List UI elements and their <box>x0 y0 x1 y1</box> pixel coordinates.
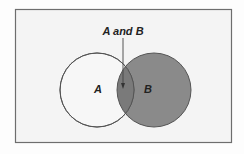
circle-a-label: A <box>93 83 102 95</box>
intersection-label: A and B <box>101 25 143 37</box>
circle-b-label: B <box>144 83 152 95</box>
venn-diagram: A and B A B <box>0 0 244 154</box>
